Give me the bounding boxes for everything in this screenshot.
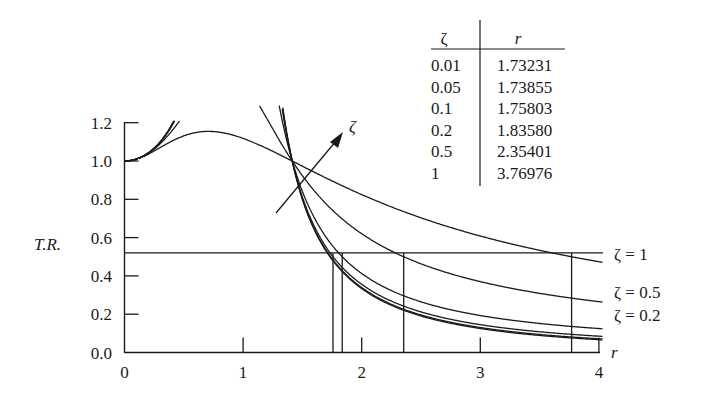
- table-body: 0.011.732310.051.738550.11.758030.21.835…: [431, 56, 552, 183]
- table-cell-r: 1.73855: [497, 78, 552, 97]
- y-tick-label: 1.2: [91, 114, 112, 133]
- table-cell-zeta: 0.5: [431, 142, 452, 161]
- curve-zeta-0_1: [125, 121, 175, 161]
- table-cell-zeta: 0.1: [431, 99, 452, 118]
- table-cell-r: 1.83580: [497, 121, 552, 140]
- y-tick-label: 0.2: [91, 305, 112, 324]
- table-cell-r: 1.73231: [497, 56, 552, 75]
- arrow-label: ζ: [349, 117, 357, 136]
- reference-lines: [125, 253, 604, 353]
- table-cell-r: 1.75803: [497, 99, 552, 118]
- curve-label: ζ = 1: [614, 245, 648, 264]
- table-header-zeta: ζ: [440, 29, 447, 48]
- table-cell-zeta: 1: [431, 164, 440, 183]
- y-tick-label: 1.0: [91, 152, 112, 171]
- curve-label: ζ = 0.5: [614, 283, 660, 302]
- curve-zeta-0_05: [125, 122, 174, 161]
- y-tick-label: 0.0: [91, 344, 112, 363]
- table-cell-zeta: 0.01: [431, 56, 461, 75]
- y-tick-label: 0.8: [91, 190, 112, 209]
- x-tick-label: 3: [476, 363, 485, 382]
- x-tick-label: 1: [239, 363, 248, 382]
- y-axis-label: T.R.: [34, 235, 61, 254]
- y-tick-label: 0.4: [91, 267, 113, 286]
- x-axis-ticks: 01234: [120, 338, 603, 383]
- transmissibility-chart: ζ r 0.011.732310.051.738550.11.758030.21…: [0, 0, 701, 399]
- y-tick-label: 0.6: [91, 229, 112, 248]
- x-tick-label: 0: [120, 363, 129, 382]
- table-cell-r: 2.35401: [497, 142, 552, 161]
- y-axis-ticks: 0.00.20.40.60.81.01.2: [91, 114, 139, 363]
- curve-label: ζ = 0.2: [614, 306, 660, 325]
- curve-zeta-0_2: [125, 121, 175, 161]
- table-cell-zeta: 0.2: [431, 121, 452, 140]
- x-axis-label: r: [611, 343, 618, 362]
- table-header-r: r: [515, 29, 522, 48]
- arrow-shaft: [276, 141, 336, 213]
- x-tick-label: 2: [357, 363, 366, 382]
- curve-labels: ζ = 0.2ζ = 0.5ζ = 1: [614, 245, 660, 325]
- curve-zeta-0_01: [125, 122, 174, 161]
- zeta-r-table: ζ r 0.011.732310.051.738550.11.758030.21…: [431, 20, 565, 186]
- table-cell-zeta: 0.05: [431, 78, 461, 97]
- x-tick-label: 4: [595, 363, 604, 382]
- zeta-arrow-annotation: ζ: [276, 117, 357, 213]
- table-cell-r: 3.76976: [497, 164, 552, 183]
- transmissibility-curves: [125, 106, 603, 340]
